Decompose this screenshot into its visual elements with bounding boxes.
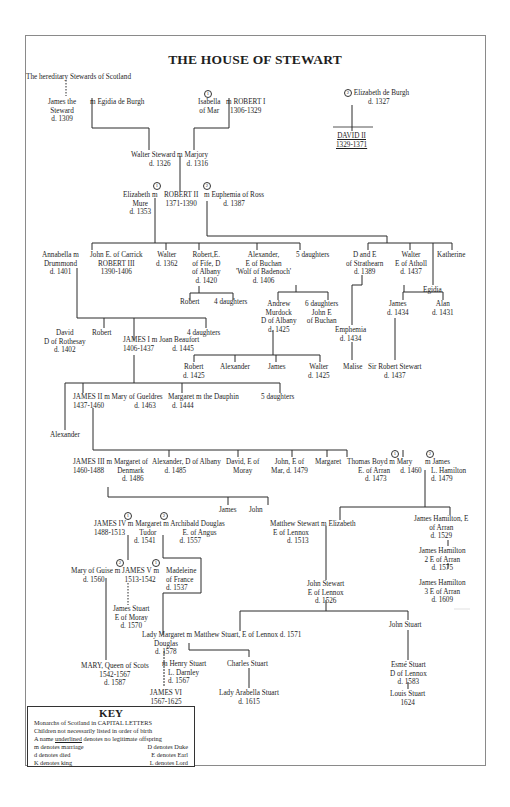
person-sir-robert-stewart: Sir Robert Stewartd. 1437: [368, 363, 422, 380]
person-elizabeth-mure: Elizabeth mMured. 1353: [123, 191, 158, 217]
person-robert: Robert: [180, 298, 200, 307]
person-walter-1425: Walterd. 1425: [308, 363, 330, 380]
person-james-the-steward: James theStewardd. 1309: [48, 98, 76, 124]
person-robert-c: Robert: [92, 329, 112, 338]
person-walter-atholl: WalterE of Atholld. 1437: [395, 251, 427, 277]
person-thomas-boyd-mary: Thomas Boyd m Mary E. of Arrand. 1460 d.…: [347, 458, 422, 484]
person-egidia-de-burgh: m Egidia de Burgh: [90, 98, 144, 107]
key-line-underline: A name underlined denotes no legitimate …: [28, 735, 194, 743]
person-james-hamilton-1: James Hamilton, Eof Arrand. 1529: [414, 515, 469, 541]
person-louis-stuart: Louis Stuart1624: [390, 690, 425, 707]
person-robert-iii: John E. of CarrickROBERT III1390-1406: [90, 251, 143, 277]
four-daughters-label: 4 daughters: [214, 298, 247, 307]
person-james-hamilton-3: James Hamilton3 E of Arrand. 1609: [419, 579, 466, 605]
four-daughters-label-b: 4 daughters: [187, 329, 220, 338]
person-mary-queen-of-scots: MARY, Queen of Scots1542-1567d. 1587: [81, 662, 149, 688]
marriage-number-icon: 1: [153, 182, 161, 190]
person-walter-steward: Walter Steward m Marjory d. 1326d. 1316: [131, 151, 208, 168]
person-walter-1362: Walterd. 1362: [156, 251, 178, 268]
person-james-v: Mary of Guise m JAMES V m d. 15601513-15…: [71, 567, 159, 584]
person-egidia: Egidia: [423, 286, 442, 295]
six-daughters-label: 6 daughtersJohn Eof Buchan: [305, 300, 338, 326]
person-malise: Malise: [343, 363, 363, 372]
person-john-stewart-lennox: John StewartE of Lennoxd. 1526: [307, 580, 344, 606]
hereditary-stewards-label: The hereditary Stewards of Scotland: [26, 73, 131, 82]
person-charles-stuart: Charles Stuart: [227, 660, 268, 669]
marriage-number-icon: 2: [203, 182, 211, 190]
person-katherine: Katherine: [437, 251, 465, 260]
person-james-i: JAMES I m Joan Beaufort 1406-1437d. 1445: [123, 336, 199, 353]
person-alexander-albany: Alexander, D of Albanyd. 1485: [152, 458, 221, 475]
key-line-order: Children not necessarily listed in order…: [28, 727, 194, 735]
person-james-ii: JAMES II m Mary of Gueldres 1437-1460d. …: [73, 393, 163, 410]
person-emphemia: Emphemiad. 1434: [335, 326, 366, 343]
person-d-strathearn: D and Eof Strathearnd. 1389: [346, 251, 383, 277]
person-james-b: James: [219, 506, 237, 515]
person-robert-ii: ROBERT II1371-1390: [164, 191, 198, 208]
person-lady-arabella-stuart: Lady Arabella Stuartd. 1615: [219, 689, 279, 706]
key-row-king: K denotes kingL denotes Lord: [28, 759, 194, 767]
person-lady-margaret-douglas: Lady Margaret m Matthew Stuart, E of Len…: [142, 631, 301, 657]
key-row-died: d denotes diedE denotes Earl: [28, 751, 194, 759]
person-james-lord-hamilton: m JamesL. Hamiltond. 1479: [425, 458, 466, 484]
person-elizabeth-de-burgh: 2 Elizabeth de Burgh d. 1327: [344, 89, 409, 106]
five-daughters-label-b: 5 daughters: [261, 393, 294, 402]
person-margaret-dauphin: Margaret m the Dauphin d. 1444: [168, 393, 239, 410]
person-madeleine-of-france: Madeleineof Franced. 1537: [166, 567, 196, 593]
person-robert-i: m ROBERT I1306-1329: [226, 98, 265, 115]
person-robert-albany: Robert,E.of Fife, Dof Albanyd. 1420: [192, 251, 221, 285]
person-james-hamilton-2: James Hamilton2 E of Arrand. 1575: [419, 547, 466, 573]
person-david-rothesay: DavidD of Rothesayd. 1402: [44, 329, 86, 355]
person-esme-stuart: Esmé StuartD of Lennoxd. 1583: [390, 661, 427, 687]
person-james-vi: JAMES VI1567-1625: [150, 689, 182, 706]
person-annabella-drummond: Annabella mDrummondd. 1401: [42, 251, 79, 277]
key-row-marriage: m denotes marriageD denotes Duke: [28, 743, 194, 751]
person-alexander-j2: Alexander: [50, 431, 80, 440]
five-daughters-label: 5 daughters: [296, 251, 329, 260]
person-john-stuart: John Stuart: [389, 621, 422, 630]
person-david-moray: David, E ofMoray: [226, 458, 259, 475]
person-murdock: AndrewMurdockD of Albanyd. 1425: [261, 300, 297, 334]
person-james: James: [268, 363, 286, 372]
person-alexander-buchan: Alexander,E of Buchan'Wolf of Badenoch'd…: [236, 251, 291, 285]
key-line-monarchs: Monarchs of Scotland in CAPITAL LETTERS: [28, 719, 194, 727]
person-euphemia-of-ross: m Euphemia of Rossd. 1387: [204, 191, 264, 208]
marriage-number-icon: 2: [344, 89, 352, 97]
person-john-b: John: [249, 506, 263, 515]
person-james-iv: JAMES IV m Margaret m Archibald Douglas …: [94, 520, 225, 546]
person-james-stuart-moray: James StuartE of Morayd. 1570: [113, 605, 150, 631]
person-margaret: Margaret: [315, 458, 341, 467]
key-title: KEY: [28, 708, 194, 719]
person-david-ii: DAVID II1329-1371: [336, 132, 367, 149]
person-alexander: Alexander: [220, 363, 250, 372]
person-john-mar: John, E ofMar, d. 1479: [271, 458, 308, 475]
person-henry-stuart-darnley: m Henry StuartL. Darnleyd. 1567: [162, 660, 206, 686]
legend-key: KEY Monarchs of Scotland in CAPITAL LETT…: [27, 706, 195, 767]
person-isabella-of-mar: Isabellaof Mar: [198, 98, 220, 115]
person-robert-1425: Robertd. 1425: [183, 363, 205, 380]
person-matthew-stewart: Matthew Stewart m ElizabethE of Lennoxd.…: [270, 520, 356, 546]
person-james-1434: Jamesd. 1434: [387, 300, 409, 317]
person-alan-1431: Aland. 1431: [432, 300, 454, 317]
